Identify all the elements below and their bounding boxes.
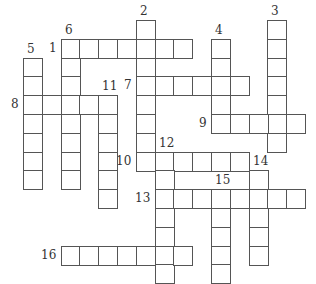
crossword-cell[interactable] bbox=[267, 114, 287, 134]
crossword-cell[interactable] bbox=[155, 189, 175, 209]
crossword-cell[interactable] bbox=[98, 170, 118, 190]
crossword-cell[interactable] bbox=[211, 76, 231, 96]
crossword-cell[interactable] bbox=[98, 246, 118, 266]
crossword-cell[interactable] bbox=[61, 114, 81, 134]
crossword-cell[interactable] bbox=[173, 152, 193, 172]
crossword-cell[interactable] bbox=[249, 114, 269, 134]
crossword-cell[interactable] bbox=[192, 76, 212, 96]
crossword-cell[interactable] bbox=[136, 39, 156, 59]
crossword-cell[interactable] bbox=[267, 58, 287, 78]
clue-number-12: 12 bbox=[159, 137, 174, 149]
crossword-cell[interactable] bbox=[211, 227, 231, 247]
crossword-cell[interactable] bbox=[136, 152, 156, 172]
crossword-cell[interactable] bbox=[136, 20, 156, 40]
crossword-cell[interactable] bbox=[136, 58, 156, 78]
crossword-cell[interactable] bbox=[230, 76, 250, 96]
crossword-cell[interactable] bbox=[155, 152, 175, 172]
crossword-cell[interactable] bbox=[155, 246, 175, 266]
crossword-cell[interactable] bbox=[211, 114, 231, 134]
crossword-cell[interactable] bbox=[249, 170, 269, 190]
crossword-cell[interactable] bbox=[267, 39, 287, 59]
crossword-cell[interactable] bbox=[23, 152, 43, 172]
crossword-cell[interactable] bbox=[61, 152, 81, 172]
clue-number-7: 7 bbox=[124, 79, 132, 91]
crossword-cell[interactable] bbox=[249, 189, 269, 209]
crossword-cell[interactable] bbox=[230, 114, 250, 134]
clue-number-3: 3 bbox=[271, 5, 279, 17]
crossword-cell[interactable] bbox=[249, 227, 269, 247]
crossword-cell[interactable] bbox=[98, 95, 118, 115]
crossword-cell[interactable] bbox=[79, 39, 99, 59]
crossword-cell[interactable] bbox=[249, 246, 269, 266]
clue-number-10: 10 bbox=[116, 155, 131, 167]
crossword-cell[interactable] bbox=[61, 246, 81, 266]
crossword-cell[interactable] bbox=[23, 95, 43, 115]
clue-number-4: 4 bbox=[215, 24, 223, 36]
crossword-cell[interactable] bbox=[61, 95, 81, 115]
clue-number-9: 9 bbox=[199, 117, 207, 129]
crossword-cell[interactable] bbox=[61, 76, 81, 96]
crossword-cell[interactable] bbox=[267, 20, 287, 40]
crossword-cell[interactable] bbox=[61, 58, 81, 78]
crossword-cell[interactable] bbox=[211, 189, 231, 209]
crossword-cell[interactable] bbox=[155, 208, 175, 228]
crossword-cell[interactable] bbox=[136, 246, 156, 266]
crossword-cell[interactable] bbox=[98, 133, 118, 153]
crossword-cell[interactable] bbox=[173, 76, 193, 96]
crossword-cell[interactable] bbox=[23, 170, 43, 190]
crossword-cell[interactable] bbox=[117, 246, 137, 266]
crossword-cell[interactable] bbox=[155, 170, 175, 190]
crossword-cell[interactable] bbox=[23, 133, 43, 153]
crossword-cell[interactable] bbox=[286, 189, 306, 209]
crossword-cell[interactable] bbox=[230, 189, 250, 209]
crossword-cell[interactable] bbox=[267, 133, 287, 153]
crossword-cell[interactable] bbox=[155, 227, 175, 247]
crossword-grid: 12345678910111213141516 bbox=[0, 0, 316, 284]
crossword-cell[interactable] bbox=[211, 246, 231, 266]
crossword-cell[interactable] bbox=[211, 264, 231, 284]
crossword-cell[interactable] bbox=[79, 246, 99, 266]
crossword-cell[interactable] bbox=[61, 170, 81, 190]
crossword-cell[interactable] bbox=[267, 95, 287, 115]
crossword-cell[interactable] bbox=[136, 95, 156, 115]
crossword-cell[interactable] bbox=[23, 58, 43, 78]
crossword-cell[interactable] bbox=[136, 76, 156, 96]
clue-number-5: 5 bbox=[27, 43, 35, 55]
crossword-cell[interactable] bbox=[61, 133, 81, 153]
clue-number-16: 16 bbox=[41, 249, 56, 261]
crossword-cell[interactable] bbox=[173, 39, 193, 59]
crossword-cell[interactable] bbox=[267, 189, 287, 209]
clue-number-2: 2 bbox=[140, 5, 148, 17]
crossword-cell[interactable] bbox=[117, 39, 137, 59]
clue-number-13: 13 bbox=[135, 192, 150, 204]
crossword-cell[interactable] bbox=[173, 246, 193, 266]
crossword-cell[interactable] bbox=[211, 39, 231, 59]
crossword-cell[interactable] bbox=[286, 114, 306, 134]
crossword-cell[interactable] bbox=[155, 39, 175, 59]
clue-number-8: 8 bbox=[11, 98, 19, 110]
crossword-cell[interactable] bbox=[42, 95, 62, 115]
crossword-cell[interactable] bbox=[211, 58, 231, 78]
crossword-cell[interactable] bbox=[211, 208, 231, 228]
crossword-cell[interactable] bbox=[136, 114, 156, 134]
crossword-cell[interactable] bbox=[98, 39, 118, 59]
crossword-cell[interactable] bbox=[136, 133, 156, 153]
crossword-cell[interactable] bbox=[211, 95, 231, 115]
crossword-cell[interactable] bbox=[98, 152, 118, 172]
crossword-cell[interactable] bbox=[61, 39, 81, 59]
crossword-cell[interactable] bbox=[98, 114, 118, 134]
crossword-cell[interactable] bbox=[267, 76, 287, 96]
crossword-cell[interactable] bbox=[230, 152, 250, 172]
crossword-cell[interactable] bbox=[192, 152, 212, 172]
crossword-cell[interactable] bbox=[155, 264, 175, 284]
crossword-cell[interactable] bbox=[155, 76, 175, 96]
crossword-cell[interactable] bbox=[211, 152, 231, 172]
crossword-cell[interactable] bbox=[192, 189, 212, 209]
crossword-cell[interactable] bbox=[173, 189, 193, 209]
clue-number-15: 15 bbox=[215, 174, 230, 186]
crossword-cell[interactable] bbox=[79, 95, 99, 115]
crossword-cell[interactable] bbox=[23, 114, 43, 134]
crossword-cell[interactable] bbox=[249, 208, 269, 228]
crossword-cell[interactable] bbox=[98, 189, 118, 209]
crossword-cell[interactable] bbox=[23, 76, 43, 96]
